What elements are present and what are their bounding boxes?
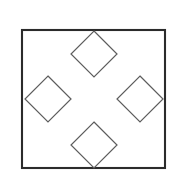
geometric-figure — [0, 0, 175, 182]
figure-background — [0, 0, 175, 182]
figure-container: Four overlapping diamonds inscribed in a… — [0, 0, 175, 182]
